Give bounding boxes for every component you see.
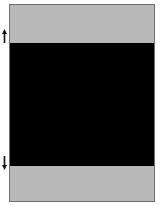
arrow-down-icon — [2, 156, 7, 170]
top-grey-band — [10, 5, 154, 43]
bottom-grey-band — [10, 166, 154, 201]
middle-black-band — [10, 43, 154, 166]
page-frame — [9, 4, 155, 202]
arrow-up-icon — [2, 29, 7, 43]
